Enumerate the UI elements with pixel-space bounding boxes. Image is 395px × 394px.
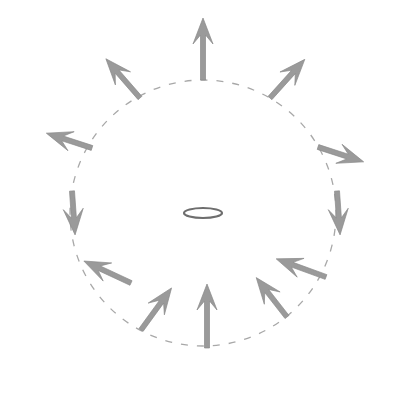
- central-edge-on-ring: [184, 208, 222, 218]
- figure-root: [0, 0, 395, 394]
- vector-field-diagram: [0, 0, 395, 394]
